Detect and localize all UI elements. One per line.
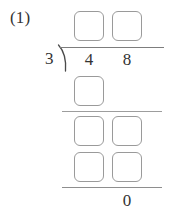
dividend-digit-2: 8 [112, 49, 142, 70]
work-box-row2-col2[interactable] [112, 116, 142, 146]
quotient-box-2[interactable] [112, 11, 142, 41]
work-rule-1 [62, 111, 162, 112]
work-rule-2 [62, 187, 162, 188]
work-box-row1-col1[interactable] [74, 76, 104, 106]
work-box-row3-col1[interactable] [74, 152, 104, 182]
division-bracket-icon [57, 44, 69, 72]
divisor-value: 3 [45, 48, 54, 69]
quotient-box-1[interactable] [74, 11, 104, 41]
problem-number-label: (1) [10, 8, 30, 28]
division-bar [60, 47, 164, 48]
remainder-value: 0 [112, 190, 142, 211]
work-box-row3-col2[interactable] [112, 152, 142, 182]
work-box-row2-col1[interactable] [74, 116, 104, 146]
dividend-digit-1: 4 [74, 49, 104, 70]
long-division-worksheet: (1) 3 4 8 0 [0, 0, 169, 214]
